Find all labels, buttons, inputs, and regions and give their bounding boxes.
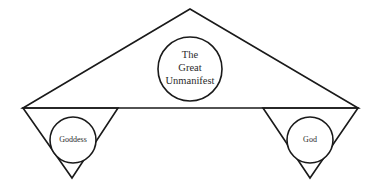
center-circle-label-line-2: Great <box>178 62 201 73</box>
left-circle-label: Goddess <box>59 135 87 144</box>
center-circle-label-line-3: Unmanifest <box>166 75 215 86</box>
hexagram-triad-diagram: The Great Unmanifest Goddess God <box>0 0 380 187</box>
diagram-root: The Great Unmanifest Goddess God <box>0 0 380 187</box>
center-circle-label-line-1: The <box>182 49 199 60</box>
right-circle-label: God <box>303 135 317 144</box>
